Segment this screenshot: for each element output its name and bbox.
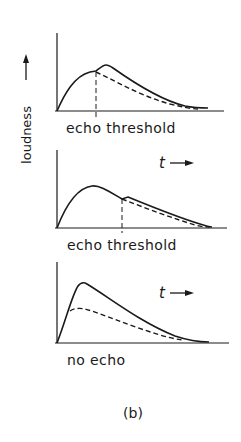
right-arrow-icon — [185, 290, 194, 296]
up-arrow-icon — [23, 54, 29, 63]
panel-1-label: echo threshold — [66, 120, 176, 136]
y-axis-label-group: loudness — [19, 54, 34, 164]
panel-2: t echo threshold — [55, 150, 227, 253]
figure-caption: (b) — [123, 405, 143, 421]
right-arrow-icon — [185, 160, 194, 166]
y-axis-label: loudness — [19, 106, 34, 164]
panel-2-time-label: t — [159, 154, 166, 172]
panel-1-solid-curve — [57, 65, 208, 111]
panel-3-label: no echo — [67, 352, 125, 368]
panel-3-dashed-curve — [70, 308, 182, 340]
panel-2-solid-curve — [57, 186, 212, 228]
panel-2-label: echo threshold — [67, 237, 177, 253]
panel-3: t no echo — [55, 262, 229, 368]
panel-3-time-label: t — [159, 284, 166, 302]
panel-1: echo threshold — [55, 33, 224, 136]
loudness-echo-diagram: loudness echo threshold t echo threshold… — [0, 0, 241, 442]
